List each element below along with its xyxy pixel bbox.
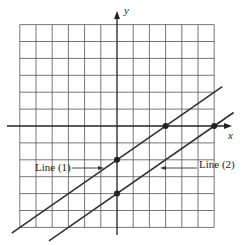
y-axis-label: y	[124, 5, 129, 16]
point-marker	[163, 123, 169, 129]
graph-canvas	[0, 0, 246, 245]
line2-label: Line (2)	[199, 159, 235, 170]
label-arrows	[72, 166, 197, 170]
y-axis-arrow-icon	[114, 11, 120, 19]
x-axis-label: x	[228, 130, 233, 141]
line2-arrowhead-icon	[160, 166, 166, 170]
coordinate-diagram: y x Line (1) Line (2)	[0, 0, 246, 245]
line1-label: Line (1)	[35, 162, 71, 173]
point-marker	[114, 157, 120, 163]
point-marker	[114, 191, 120, 197]
point-marker	[211, 123, 217, 129]
